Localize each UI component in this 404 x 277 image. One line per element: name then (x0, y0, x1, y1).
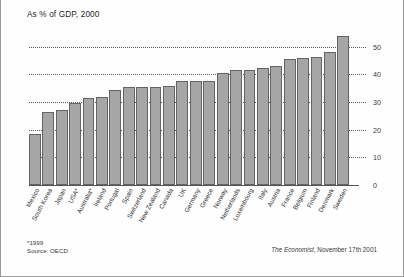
bar (136, 87, 148, 185)
bar-column (297, 33, 309, 185)
page-title: As % of GDP, 2000 (27, 10, 100, 19)
plot-area: 01020304050 (29, 33, 349, 185)
y-axis-tick-label: 30 (373, 98, 381, 107)
x-axis-label-column: Australia* (83, 186, 95, 238)
x-axis-label-column: South Korea (42, 186, 54, 238)
bar-column (190, 33, 202, 185)
publication-date: , November 17th 2001 (314, 246, 377, 253)
bar (337, 36, 349, 185)
publication-name: The Economist (271, 246, 314, 253)
bar-column (29, 33, 41, 185)
bar-column (337, 33, 349, 185)
x-axis-label-column: Denmark (324, 186, 336, 238)
x-axis-label-column: France (284, 186, 296, 238)
x-axis-label-column: Austria (270, 186, 282, 238)
y-axis-tick-label: 10 (373, 153, 381, 162)
bar (190, 81, 202, 185)
y-axis-tick-label: 0 (373, 181, 377, 190)
bar (270, 66, 282, 185)
x-axis-label-column: Portugal (109, 186, 121, 238)
x-axis-label-column: Luxembourg (244, 186, 256, 238)
bar-column (324, 33, 336, 185)
bar-column (109, 33, 121, 185)
publication-credit: The Economist, November 17th 2001 (271, 246, 377, 253)
bar-series (29, 33, 349, 185)
x-axis-label-column: Germany (190, 186, 202, 238)
bar (284, 59, 296, 185)
bar-column (270, 33, 282, 185)
bar-column (230, 33, 242, 185)
x-axis-label-column: Greece (203, 186, 215, 238)
footnote: *1999 Source: OECD (27, 239, 68, 255)
bar-column (42, 33, 54, 185)
footnote-source: Source: OECD (27, 247, 68, 255)
bar (324, 52, 336, 185)
bar-column (311, 33, 323, 185)
bar-column (123, 33, 135, 185)
x-axis-label-column: Sweden (337, 186, 349, 238)
x-axis-label-column: New Zealand (150, 186, 162, 238)
chart-figure: As % of GDP, 2000 01020304050 MexicoSout… (0, 0, 404, 277)
x-axis-label-column: Japan (56, 186, 68, 238)
x-axis-labels: MexicoSouth KoreaJapanUSA*Australia*Irel… (29, 186, 349, 238)
bar-column (83, 33, 95, 185)
bar (297, 58, 309, 185)
y-axis-tick-label: 20 (373, 125, 381, 134)
bar-column (136, 33, 148, 185)
y-axis-tick-label: 50 (373, 42, 381, 51)
footnote-asterisk: *1999 (27, 239, 68, 247)
x-axis-label-column: Belgium (297, 186, 309, 238)
x-axis-label-column: Italy (257, 186, 269, 238)
bar-column (96, 33, 108, 185)
bar-column (176, 33, 188, 185)
bar (83, 98, 95, 185)
bar-column (203, 33, 215, 185)
x-axis-label-column: Canada (163, 186, 175, 238)
x-axis-label-column: Ireland (96, 186, 108, 238)
bar-column (69, 33, 81, 185)
y-axis-tick-label: 40 (373, 70, 381, 79)
bar-column (284, 33, 296, 185)
bar-column (217, 33, 229, 185)
